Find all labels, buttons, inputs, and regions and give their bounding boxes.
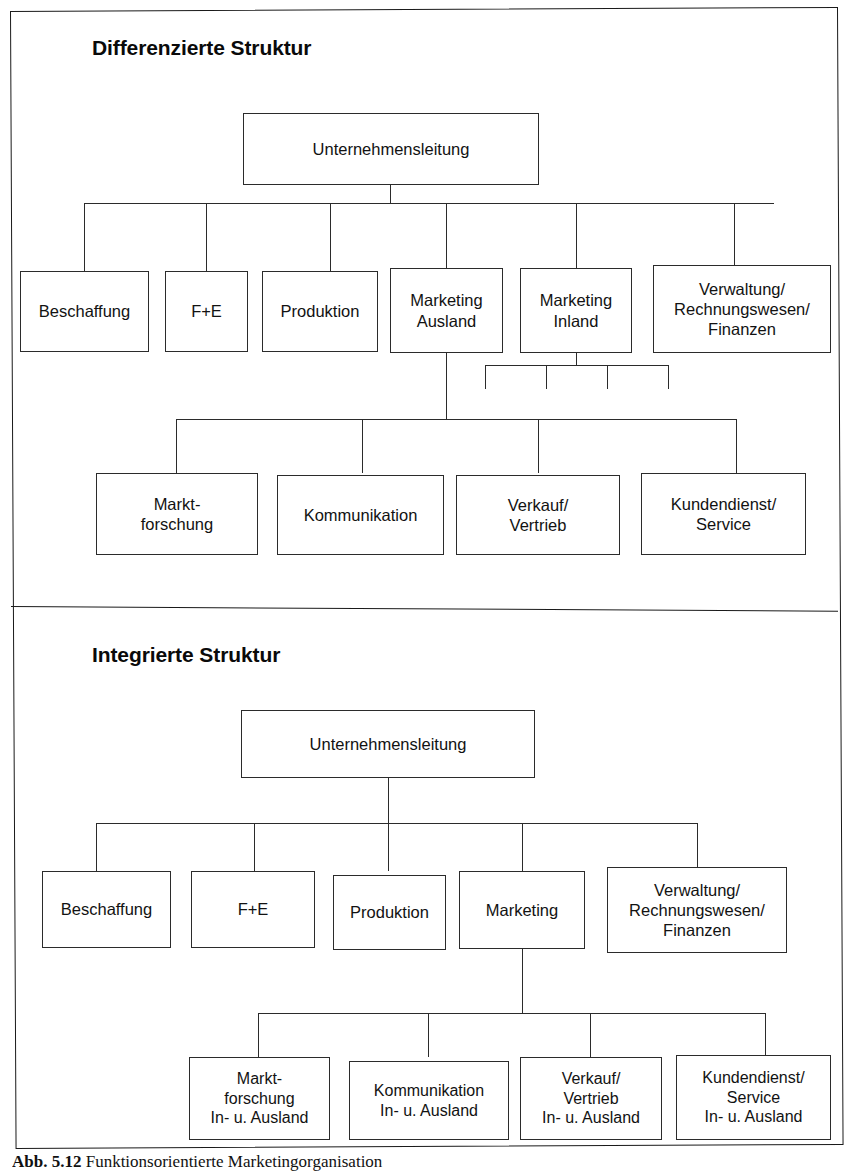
connector-root-stem-p1	[390, 185, 391, 203]
connector-drop-verkauf-p1	[538, 419, 539, 473]
node-label-line1: Verkauf/	[524, 1069, 658, 1089]
panel-heading-differenzierte-struktur: Differenzierte Struktur	[92, 36, 311, 60]
node-verwaltung-rechnungswesen-finanzen-p2: Verwaltung/ Rechnungswesen/ Finanzen	[607, 867, 787, 953]
connector-inland-stub-1-p1	[485, 365, 486, 389]
figure-caption-text: Funktionsorientierte Marketingorganisati…	[86, 1152, 383, 1171]
connector-drop-beschaffung-p1	[84, 203, 85, 271]
connector-inland-stub-4-p1	[668, 365, 669, 389]
connector-drop-marketing-inland-p1	[576, 203, 577, 271]
node-label-line3: In- u. Ausland	[193, 1108, 326, 1128]
connector-inland-stem-p1	[576, 353, 577, 365]
node-label-line3: In- u. Ausland	[524, 1108, 658, 1128]
node-verkauf-vertrieb-p2: Verkauf/ Vertrieb In- u. Ausland	[520, 1057, 662, 1140]
connector-drop-kommunikation-p1	[362, 419, 363, 473]
node-label-line1: Marketing	[394, 290, 499, 310]
node-verwaltung-rechnungswesen-finanzen-p1: Verwaltung/ Rechnungswesen/ Finanzen	[653, 265, 831, 353]
node-label-line2: Service	[645, 514, 802, 534]
node-label: Beschaffung	[46, 899, 167, 919]
connector-drop-marketing-p2	[522, 823, 523, 871]
node-label-line3: Finanzen	[657, 319, 827, 339]
node-marketing-p2: Marketing	[459, 871, 585, 949]
connector-root-stem-p2	[388, 778, 389, 823]
node-label-line1: Kommunikation	[281, 505, 440, 525]
node-beschaffung-p1: Beschaffung	[20, 271, 149, 352]
connector-drop-kommunikation-p2	[428, 1013, 429, 1057]
connector-bus-level1-p2	[96, 823, 697, 824]
connector-drop-marktforschung-p1	[176, 419, 177, 473]
node-kundendienst-service-p1: Kundendienst/ Service	[641, 473, 806, 555]
figure-caption: Abb. 5.12 Funktionsorientierte Marketing…	[12, 1152, 852, 1172]
connector-drop-marketing-ausland-p1	[446, 203, 447, 271]
connector-drop-fe-p1	[206, 203, 207, 271]
connector-inland-stub-bus-p1	[485, 365, 668, 366]
panel-heading-integrierte-struktur: Integrierte Struktur	[92, 643, 280, 667]
node-unternehmensleitung-differenziert: Unternehmensleitung	[243, 113, 539, 185]
node-kommunikation-p2: Kommunikation In- u. Ausland	[349, 1061, 509, 1140]
node-label-line1: Verkauf/	[460, 495, 616, 515]
node-label-line1: Verwaltung/	[657, 279, 827, 299]
connector-ausland-stem-p1	[446, 353, 447, 419]
node-label-line2: Vertrieb	[524, 1089, 658, 1109]
node-label-line2: forschung	[193, 1089, 326, 1109]
node-label-line1: Kundendienst/	[645, 494, 802, 514]
node-label: Marketing	[463, 900, 581, 920]
figure-caption-number: Abb. 5.12	[12, 1152, 81, 1171]
node-label-line1: Verwaltung/	[611, 880, 783, 900]
connector-marketing-stem-p2	[522, 949, 523, 1013]
node-label-line3: Finanzen	[611, 920, 783, 940]
figure-page: Differenzierte Struktur Unternehmensleit…	[0, 0, 865, 1173]
connector-drop-marktforschung-p2	[258, 1013, 259, 1057]
node-label-line2: Rechnungswesen/	[611, 900, 783, 920]
connector-bus-level2-p2	[258, 1013, 765, 1014]
connector-inland-stub-3-p1	[607, 365, 608, 389]
node-label-line1: Markt-	[100, 494, 254, 514]
connector-bus-level2-p1	[176, 419, 736, 420]
node-label: Beschaffung	[24, 301, 145, 321]
connector-drop-beschaffung-p2	[96, 823, 97, 871]
node-produktion-p1: Produktion	[262, 271, 378, 352]
connector-drop-verkauf-p2	[590, 1013, 591, 1057]
node-label: Produktion	[337, 902, 442, 922]
connector-drop-produktion-p2	[388, 823, 389, 871]
node-label-line2: forschung	[100, 514, 254, 534]
node-fe-p1: F+E	[165, 271, 248, 352]
node-label-line3: In- u. Ausland	[680, 1107, 827, 1127]
node-label-line2: Vertrieb	[460, 515, 616, 535]
node-label: Unternehmensleitung	[247, 139, 535, 159]
node-unternehmensleitung-integriert: Unternehmensleitung	[241, 710, 535, 778]
connector-drop-kundendienst-p2	[765, 1013, 766, 1057]
node-label-line2: In- u. Ausland	[353, 1101, 505, 1121]
node-kundendienst-service-p2: Kundendienst/ Service In- u. Ausland	[676, 1055, 831, 1140]
connector-drop-kundendienst-p1	[736, 419, 737, 473]
node-label-line1: Marketing	[524, 290, 628, 310]
connector-drop-verwaltung-p2	[697, 823, 698, 867]
node-label: Produktion	[266, 301, 374, 321]
connector-bus-level1-p1	[84, 203, 774, 204]
node-label-line1: Kommunikation	[353, 1081, 505, 1101]
node-label-line2: Service	[680, 1088, 827, 1108]
connector-inland-stub-2-p1	[546, 365, 547, 389]
node-label-line2: Rechnungswesen/	[657, 299, 827, 319]
node-produktion-p2: Produktion	[333, 875, 446, 950]
node-label: Unternehmensleitung	[245, 734, 531, 754]
node-label: F+E	[169, 301, 244, 321]
connector-drop-fe-p2	[254, 823, 255, 871]
node-verkauf-vertrieb-p1: Verkauf/ Vertrieb	[456, 475, 620, 555]
connector-drop-produktion-p1	[330, 203, 331, 271]
node-marketing-inland-p1: Marketing Inland	[520, 268, 632, 353]
node-marktforschung-p1: Markt- forschung	[96, 473, 258, 555]
node-label: F+E	[195, 899, 311, 919]
connector-drop-verwaltung-p1	[734, 203, 735, 265]
node-kommunikation-p1: Kommunikation	[277, 475, 444, 555]
node-label-line2: Ausland	[394, 311, 499, 331]
node-label-line1: Markt-	[193, 1069, 326, 1089]
node-marktforschung-p2: Markt- forschung In- u. Ausland	[189, 1057, 330, 1140]
node-fe-p2: F+E	[191, 871, 315, 948]
node-label-line1: Kundendienst/	[680, 1068, 827, 1088]
node-marketing-ausland-p1: Marketing Ausland	[390, 268, 503, 353]
node-beschaffung-p2: Beschaffung	[42, 871, 171, 948]
node-label-line2: Inland	[524, 311, 628, 331]
